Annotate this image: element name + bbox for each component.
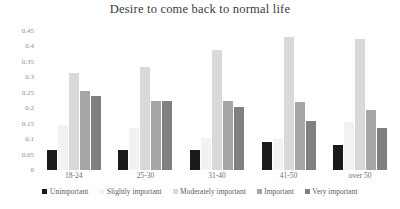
bar[interactable] <box>162 101 172 171</box>
y-axis-tick: 0.4 <box>25 43 34 50</box>
bar-group <box>253 31 325 170</box>
bar[interactable] <box>223 101 233 171</box>
bar[interactable] <box>118 150 128 170</box>
legend-item[interactable]: Unimportant <box>42 188 88 196</box>
bar[interactable] <box>129 128 139 170</box>
bar[interactable] <box>344 122 354 170</box>
legend-label: Unimportant <box>50 188 88 196</box>
y-axis-tick: 0.25 <box>22 89 34 96</box>
bar[interactable] <box>140 67 150 170</box>
legend-swatch-icon <box>99 189 104 194</box>
legend-item[interactable]: Moderately important <box>173 188 246 196</box>
bar[interactable] <box>355 39 365 170</box>
bar[interactable] <box>295 102 305 170</box>
chart-container: Desire to come back to normal life 00.05… <box>0 0 400 209</box>
bar-group <box>324 31 396 170</box>
bar[interactable] <box>80 91 90 170</box>
bar[interactable] <box>333 145 343 170</box>
x-axis-tick: 25-30 <box>110 171 182 180</box>
y-axis-tick: 0.3 <box>25 74 34 81</box>
bar-group <box>38 31 110 170</box>
legend-swatch-icon <box>173 189 178 194</box>
y-axis-tick: 0 <box>31 167 35 174</box>
legend-item[interactable]: Very important <box>305 188 358 196</box>
legend-label: Important <box>264 188 294 196</box>
legend-swatch-icon <box>42 189 47 194</box>
bar-groups <box>38 31 396 170</box>
x-axis-tick: 41-50 <box>253 171 325 180</box>
chart-legend: UnimportantSlightly importantModerately … <box>0 188 400 196</box>
bar[interactable] <box>47 150 57 170</box>
bar-group <box>110 31 182 170</box>
y-axis-tick: 0.15 <box>22 120 34 127</box>
bar[interactable] <box>201 138 211 170</box>
y-axis-tick: 0.05 <box>22 151 34 158</box>
legend-label: Moderately important <box>180 188 246 196</box>
legend-label: Very important <box>312 188 357 196</box>
bar[interactable] <box>284 37 294 170</box>
bar[interactable] <box>273 139 283 170</box>
bar[interactable] <box>69 73 79 170</box>
chart-title: Desire to come back to normal life <box>0 2 400 17</box>
x-axis-tick: 31-40 <box>181 171 253 180</box>
bar-group <box>181 31 253 170</box>
bar[interactable] <box>58 125 68 170</box>
bar[interactable] <box>306 121 316 170</box>
y-axis: 00.050.10.150.20.250.30.350.40.45 <box>0 31 36 170</box>
legend-swatch-icon <box>257 189 262 194</box>
x-axis-tick: 18-24 <box>38 171 110 180</box>
bar[interactable] <box>91 96 101 170</box>
legend-swatch-icon <box>305 189 310 194</box>
x-axis-labels: 18-2425-3031-4041-50over 50 <box>38 171 396 180</box>
y-axis-tick: 0.2 <box>25 105 34 112</box>
bar[interactable] <box>212 50 222 170</box>
plot-area <box>38 31 396 170</box>
bar[interactable] <box>234 107 244 170</box>
legend-item[interactable]: Important <box>257 188 294 196</box>
legend-item[interactable]: Slightly important <box>99 188 161 196</box>
y-axis-tick: 0.45 <box>22 28 34 35</box>
bar[interactable] <box>366 110 376 170</box>
bar[interactable] <box>190 150 200 170</box>
bar[interactable] <box>151 101 161 171</box>
y-axis-tick: 0.35 <box>22 58 34 65</box>
y-axis-tick: 0.1 <box>25 136 34 143</box>
bar[interactable] <box>377 128 387 170</box>
x-axis-tick: over 50 <box>324 171 396 180</box>
legend-label: Slightly important <box>107 188 162 196</box>
bar[interactable] <box>262 142 272 170</box>
